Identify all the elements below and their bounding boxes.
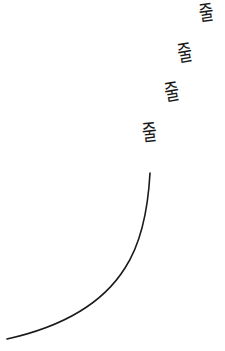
curved-line xyxy=(0,0,225,351)
